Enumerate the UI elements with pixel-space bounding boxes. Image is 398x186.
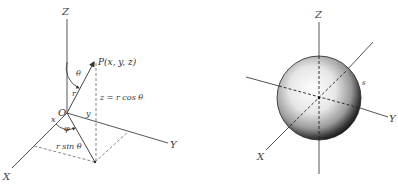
z-axis-label: Z (61, 6, 70, 17)
sphere-y-axis-right (360, 108, 388, 117)
sphere-x-axis-lower (266, 126, 290, 150)
sphere-center (318, 97, 320, 99)
sphere-surface-label: s (362, 79, 366, 87)
y-axis (67, 113, 168, 143)
sphere-y-label: Y (389, 113, 397, 124)
point-p-label: P(x, y, z) (97, 57, 137, 67)
z-relation-label: z = r cos θ (99, 93, 143, 102)
phi-label: φ (64, 124, 70, 133)
figure-canvas: Z X Y O P(x, y, z) θ r z = r cos θ y x φ… (0, 0, 398, 186)
x-axis (12, 113, 67, 168)
sphere-x-axis-upper (346, 42, 373, 71)
sphere-z-label: Z (314, 9, 323, 20)
theta-label: θ (76, 69, 81, 78)
spherical-coordinates-figure: Z X Y O P(x, y, z) θ r z = r cos θ y x φ… (2, 6, 178, 182)
diagram-svg: Z X Y O P(x, y, z) θ r z = r cos θ y x φ… (0, 0, 398, 186)
sphere-x-label: X (256, 151, 265, 162)
radius-label: r (72, 89, 77, 98)
sphere-figure: Z X Y s (246, 9, 397, 174)
sphere-y-axis-left (246, 77, 279, 86)
origin-label: O (58, 107, 66, 118)
y-component-label: y (85, 109, 91, 118)
y-projection-dashed (95, 131, 129, 162)
x-axis-label: X (2, 171, 11, 182)
projection-foot (94, 161, 96, 163)
x-component-label: x (51, 115, 56, 124)
projection-label: r sin θ (56, 142, 82, 151)
y-axis-label: Y (170, 139, 178, 150)
